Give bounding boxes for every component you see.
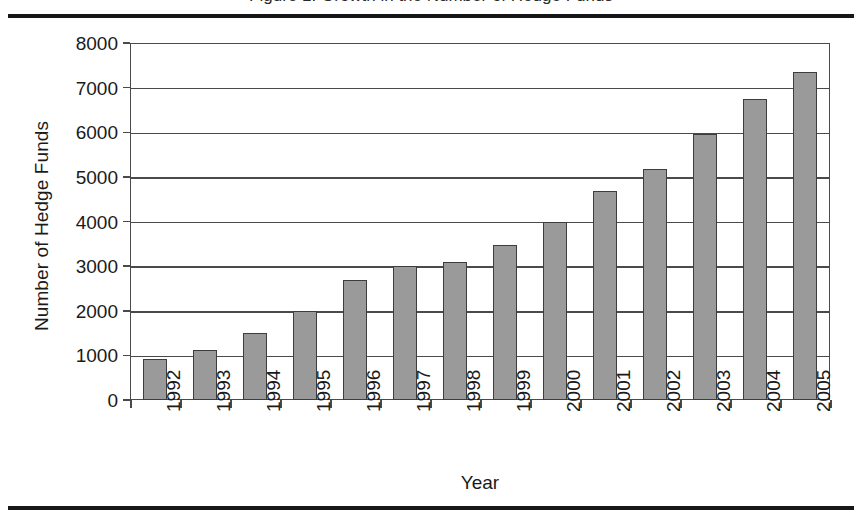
y-tick-label: 4000	[8, 213, 118, 232]
y-tick-label: 5000	[8, 168, 118, 187]
y-tick-mark	[123, 42, 130, 44]
x-tick-label: 2002	[664, 342, 683, 412]
y-tick-mark	[123, 132, 130, 134]
x-tick-label: 1999	[514, 342, 533, 412]
y-tick-label: 0	[8, 391, 118, 410]
y-tick-mark	[123, 355, 130, 357]
x-tick-label: 2003	[714, 342, 733, 412]
x-axis-title: Year	[130, 472, 830, 494]
x-tick-label: 1995	[314, 342, 333, 412]
x-tick-label: 2005	[814, 342, 833, 412]
x-tick-label: 2000	[564, 342, 583, 412]
x-tick-label: 1994	[264, 342, 283, 412]
y-tick-label: 7000	[8, 79, 118, 98]
bottom-rule	[8, 506, 854, 510]
x-tick-label: 1992	[164, 342, 183, 412]
figure-caption: Figure 1. Growth in the Number of Hedge …	[0, 0, 862, 6]
figure-caption-clip: Figure 1. Growth in the Number of Hedge …	[0, 0, 862, 13]
y-tick-label: 6000	[8, 123, 118, 142]
y-tick-mark	[123, 176, 130, 178]
x-tick-label: 1996	[364, 342, 383, 412]
y-tick-mark	[123, 87, 130, 89]
x-tick-label: 1997	[414, 342, 433, 412]
x-tick-label: 2004	[764, 342, 783, 412]
x-tick-label: 1993	[214, 342, 233, 412]
x-tick-label: 1998	[464, 342, 483, 412]
y-tick-label: 2000	[8, 302, 118, 321]
y-tick-mark	[123, 310, 130, 312]
bar-chart: Number of Hedge Funds 010002000300040005…	[0, 20, 862, 506]
y-tick-mark	[123, 399, 130, 401]
top-rule	[8, 14, 854, 18]
x-tick-label: 2001	[614, 342, 633, 412]
y-tick-label: 8000	[8, 34, 118, 53]
y-tick-mark	[123, 221, 130, 223]
y-tick-label: 1000	[8, 346, 118, 365]
x-tick-mark	[130, 400, 132, 408]
y-tick-label: 3000	[8, 257, 118, 276]
y-tick-mark	[123, 265, 130, 267]
